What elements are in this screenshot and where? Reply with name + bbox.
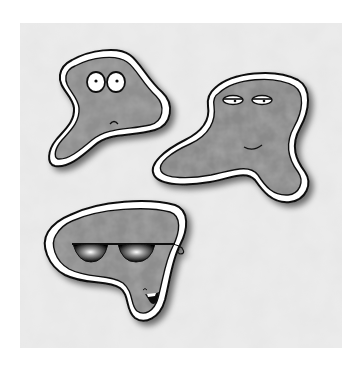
amoeba-illustration (0, 0, 358, 370)
